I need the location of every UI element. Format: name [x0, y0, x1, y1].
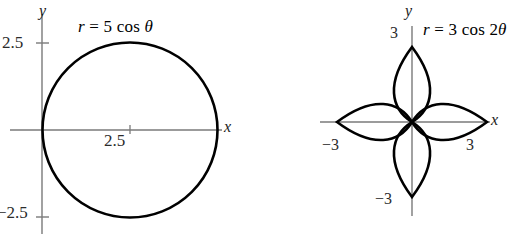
- y-axis-label-right: y: [405, 2, 412, 20]
- equation-coefficient: 5: [104, 17, 113, 36]
- equation-label-rose: r = 3 cos 2θ: [423, 20, 507, 40]
- x-tick-label-negative-3-right: −3: [322, 136, 339, 154]
- equation-coefficient-rose: 3: [449, 20, 458, 39]
- y-tick-label-2point5-left: 2.5: [2, 33, 23, 53]
- y-axis-label-left: y: [39, 2, 46, 20]
- equation-cos-function-rose: cos: [462, 20, 485, 39]
- equation-r-symbol: r: [78, 17, 85, 36]
- equation-equals-sign-rose: =: [434, 20, 444, 39]
- y-tick-label-negative-3-right: −3: [375, 190, 392, 208]
- x-axis-label-right: x: [491, 111, 498, 129]
- equation-label-circle: r = 5 cos θ: [78, 17, 153, 37]
- equation-r-symbol-rose: r: [423, 20, 430, 39]
- equation-multiplier-rose: 2: [489, 20, 498, 39]
- equation-theta-symbol-rose: θ: [498, 20, 507, 39]
- polar-graph-figure-pair: r = 5 cos θ y x 2.5 −2.5 2.5 r = 3 cos 2…: [0, 0, 530, 234]
- equation-equals-sign: =: [89, 17, 99, 36]
- y-tick-label-3-right: 3: [390, 24, 398, 42]
- x-tick-label-3-right: 3: [466, 136, 474, 154]
- x-tick-label-2point5-left: 2.5: [104, 131, 125, 151]
- x-axis-label-left: x: [224, 118, 231, 136]
- equation-theta-symbol: θ: [144, 17, 153, 36]
- equation-cos-function: cos: [117, 17, 140, 36]
- y-tick-label-negative-2point5-left: −2.5: [0, 203, 28, 223]
